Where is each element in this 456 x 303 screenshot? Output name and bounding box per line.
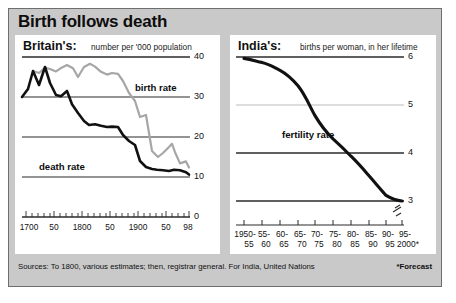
britain-ytick-10: 10 bbox=[194, 171, 204, 181]
britain-ytick-20: 20 bbox=[194, 131, 204, 141]
india-x-ticks bbox=[244, 220, 402, 225]
britain-xtick-1750: 50 bbox=[43, 222, 65, 232]
britain-xtick-1950: 50 bbox=[155, 222, 177, 232]
britain-xtick-1850: 50 bbox=[99, 222, 121, 232]
forecast-note: *Forecast bbox=[396, 262, 432, 271]
india-ytick-4: 4 bbox=[408, 147, 413, 157]
birth-rate-label: birth rate bbox=[135, 82, 177, 93]
britain-ytick-40: 40 bbox=[194, 51, 204, 61]
india-plot-area: 6 5 4 3 1950- 55- 60- 65- 70- 75- 80- 85… bbox=[236, 57, 404, 227]
panel-india-label: India's: bbox=[238, 39, 281, 53]
panel-britain-units: number per '000 population bbox=[91, 42, 192, 52]
chart-figure: Birth follows death Britain's: number pe… bbox=[8, 8, 442, 287]
india-gridlines bbox=[236, 57, 404, 225]
britain-xtick-1900: 1900 bbox=[123, 222, 153, 232]
britain-x-ticks bbox=[26, 211, 189, 217]
page-title: Birth follows death bbox=[18, 12, 167, 32]
chart-footer: Sources: To 1800, various estimates; the… bbox=[9, 256, 441, 286]
britain-plot-area: 40 30 20 10 0 1700 50 1800 50 1900 50 98… bbox=[22, 57, 190, 227]
britain-ytick-30: 30 bbox=[194, 91, 204, 101]
india-ytick-6: 6 bbox=[408, 51, 413, 61]
fertility-rate-label: fertility rate bbox=[282, 129, 334, 140]
britain-xtick-1998: 98 bbox=[177, 222, 199, 232]
panel-britain-label: Britain's: bbox=[23, 39, 77, 53]
death-rate-label: death rate bbox=[39, 161, 85, 172]
chart-header: Birth follows death bbox=[9, 9, 441, 35]
panel-india-units: births per woman, in her lifetime bbox=[300, 42, 418, 52]
birth-rate-line bbox=[33, 64, 189, 168]
britain-ytick-0: 0 bbox=[194, 211, 199, 221]
axis-break-icon bbox=[393, 205, 401, 216]
panel-india: India's: births per woman, in her lifeti… bbox=[230, 35, 436, 254]
sources-note: Sources: To 1800, various estimates; the… bbox=[18, 262, 315, 271]
india-ytick-5: 5 bbox=[408, 99, 413, 109]
britain-xtick-1800: 1800 bbox=[67, 222, 97, 232]
britain-gridlines bbox=[22, 57, 190, 217]
india-xtick-top-9: 95- bbox=[394, 229, 416, 239]
india-ytick-3: 3 bbox=[408, 195, 413, 205]
panel-britain: Britain's: number per '000 population bbox=[15, 35, 220, 254]
india-xtick-bottom-9: 2000* bbox=[393, 239, 423, 249]
britain-xtick-1700: 1700 bbox=[14, 222, 44, 232]
